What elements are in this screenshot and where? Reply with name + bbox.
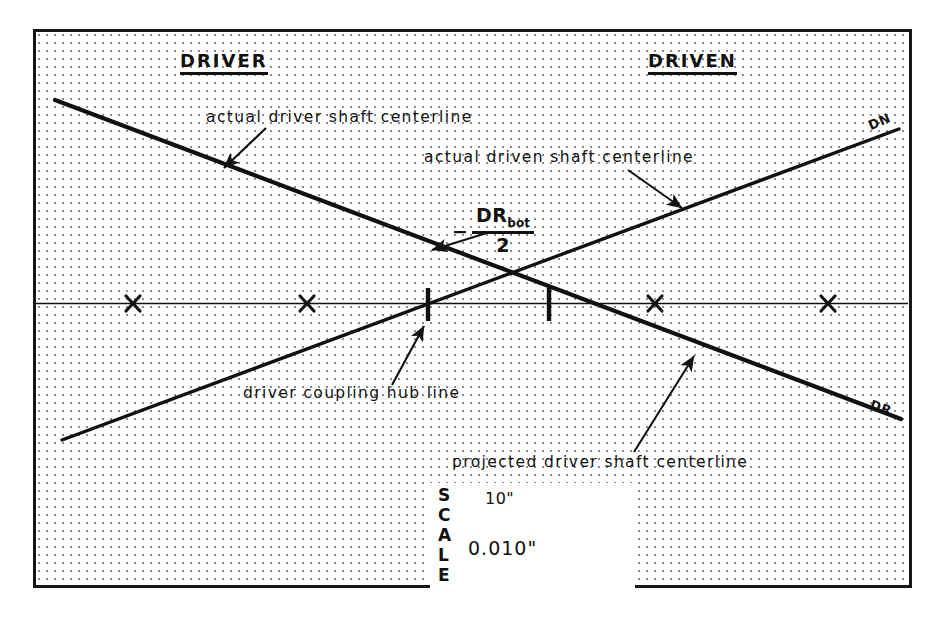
label-projected-driver-centerline: projected driver shaft centerline bbox=[452, 455, 748, 471]
offset-dimension-label: − DRbot 2 bbox=[452, 206, 534, 255]
scale-word-vertical: S C A L E bbox=[438, 485, 451, 585]
scale-letter-l: L bbox=[438, 545, 451, 565]
drawing-canvas: DRIVER DRIVEN actual driver shaft center… bbox=[0, 0, 946, 617]
offset-denominator: 2 bbox=[496, 234, 509, 255]
header-driven: DRIVEN bbox=[648, 52, 737, 75]
scale-horizontal-value: 10" bbox=[485, 489, 514, 508]
label-actual-driver-centerline: actual driver shaft centerline bbox=[206, 110, 473, 126]
offset-numerator-subscript: bot bbox=[507, 216, 530, 230]
scale-letter-a: A bbox=[438, 525, 451, 545]
offset-minus-sign: − bbox=[452, 220, 468, 242]
scale-letter-s: S bbox=[438, 485, 451, 505]
scale-letter-e: E bbox=[438, 565, 451, 585]
header-driver: DRIVER bbox=[180, 52, 268, 75]
scale-letter-c: C bbox=[438, 505, 451, 525]
scale-legend: S C A L E 10" 0.010" bbox=[430, 483, 635, 588]
label-actual-driven-centerline: actual driven shaft centerline bbox=[424, 150, 694, 166]
offset-fraction: DRbot 2 bbox=[472, 206, 534, 255]
scale-vertical-value: 0.010" bbox=[468, 537, 537, 559]
offset-numerator-main: DR bbox=[476, 204, 507, 226]
label-driver-coupling-hub-line: driver coupling hub line bbox=[243, 386, 460, 402]
offset-numerator: DRbot bbox=[472, 206, 534, 231]
